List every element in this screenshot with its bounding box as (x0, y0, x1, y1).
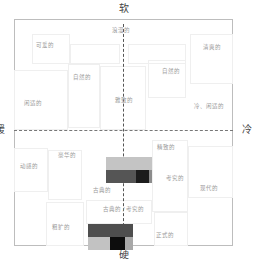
region (32, 34, 70, 64)
region (148, 60, 186, 98)
image-word-label: 正式的 (156, 233, 174, 239)
rugged-palette (88, 224, 133, 250)
axis-label-hard: 硬 (119, 250, 129, 260)
region (154, 212, 188, 246)
image-word-label: 自然的 (162, 69, 180, 75)
color-swatch (149, 170, 152, 183)
image-word-label: 浪漫的 (112, 28, 130, 34)
horizontal-axis-line (14, 130, 233, 131)
image-word-label: 清爽的 (203, 45, 221, 51)
image-word-label: 可爱的 (36, 43, 54, 49)
color-swatch (106, 157, 152, 170)
color-swatch (88, 224, 133, 237)
axis-label-soft: 软 (119, 4, 129, 14)
color-swatch (110, 237, 125, 250)
image-word-label: 自然的 (73, 75, 91, 81)
image-word-label: 考究的 (166, 176, 184, 182)
color-swatch (106, 170, 136, 183)
image-word-label: 豪华的 (58, 153, 76, 159)
image-word-label: 古典的 / 考究的 (103, 207, 144, 213)
region (70, 44, 120, 64)
axis-label-warm: 暖 (0, 125, 5, 135)
axis-label-cool: 冷 (242, 125, 252, 135)
classic-palette (106, 157, 152, 183)
color-swatch (136, 170, 149, 183)
image-word-label: 动感的 (20, 164, 38, 170)
image-word-label: 雅致的 (115, 98, 133, 104)
region (190, 34, 233, 84)
image-word-label: 冷、闲适的 (194, 104, 224, 110)
image-word-label: 现代的 (200, 186, 218, 192)
color-swatch (125, 237, 133, 250)
image-word-label: 闲适的 (24, 101, 42, 107)
vertical-axis-line (123, 24, 124, 246)
image-word-label: 古典的 (93, 188, 111, 194)
image-word-label: 粗犷的 (52, 225, 70, 231)
color-swatch (88, 237, 110, 250)
region (14, 148, 48, 192)
image-word-label: 精致的 (157, 145, 175, 151)
